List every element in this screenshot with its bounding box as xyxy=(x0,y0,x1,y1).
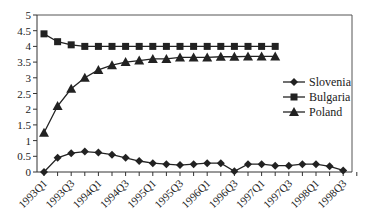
x-tick-label: 1998Q1 xyxy=(288,177,322,211)
x-tick-label: 1993Q1 xyxy=(16,177,50,211)
legend: SloveniaBulgariaPoland xyxy=(283,75,352,119)
diamond-marker xyxy=(162,160,170,168)
diamond-marker xyxy=(339,166,347,174)
x-tick-label: 1994Q1 xyxy=(70,177,104,211)
x-tick-label: 1998Q3 xyxy=(315,177,349,211)
diamond-marker xyxy=(122,154,130,162)
diamond-marker xyxy=(230,167,238,175)
x-tick-label: 1997Q3 xyxy=(261,177,295,211)
square-marker xyxy=(204,43,211,50)
diamond-marker xyxy=(326,162,334,170)
diamond-marker xyxy=(149,159,157,167)
square-marker xyxy=(81,43,88,50)
square-marker xyxy=(245,43,252,50)
x-tick-label: 1995Q3 xyxy=(152,177,186,211)
y-tick-label: 0.5 xyxy=(17,150,31,162)
diamond-marker xyxy=(190,160,198,168)
square-marker xyxy=(54,38,61,45)
square-marker xyxy=(149,43,156,50)
y-tick-label: 1.5 xyxy=(17,119,31,131)
y-tick-label: 2 xyxy=(26,103,32,115)
diamond-marker xyxy=(94,149,102,157)
x-tick-label: 1997Q1 xyxy=(233,177,267,211)
square-marker xyxy=(109,43,116,50)
square-marker xyxy=(163,43,170,50)
diamond-marker xyxy=(67,149,75,157)
diamond-marker xyxy=(81,148,89,156)
series-group xyxy=(39,30,347,176)
diamond-marker xyxy=(217,159,225,167)
diamond-marker xyxy=(298,160,306,168)
series-bulgaria xyxy=(41,30,279,50)
diamond-marker xyxy=(203,159,211,167)
series-poland xyxy=(39,51,280,136)
legend-item-slovenia: Slovenia xyxy=(283,75,352,89)
y-tick-label: 4.5 xyxy=(17,25,31,37)
x-tick-label: 1993Q3 xyxy=(43,177,77,211)
diamond-marker xyxy=(176,161,184,169)
legend-label: Slovenia xyxy=(309,75,352,89)
x-tick-label: 1995Q1 xyxy=(125,177,159,211)
square-marker xyxy=(258,43,265,50)
diamond-marker xyxy=(244,160,252,168)
y-axis: 00.511.522.533.544.55 xyxy=(17,9,37,178)
square-marker xyxy=(272,43,279,50)
square-marker xyxy=(41,30,48,37)
legend-label: Poland xyxy=(309,105,342,119)
legend-item-bulgaria: Bulgaria xyxy=(283,90,351,104)
y-tick-label: 3 xyxy=(26,72,32,84)
diamond-marker xyxy=(258,160,266,168)
y-tick-label: 3.5 xyxy=(17,56,31,68)
x-tick-label: 1996Q3 xyxy=(206,177,240,211)
square-marker xyxy=(217,43,224,50)
y-tick-label: 4 xyxy=(26,40,32,52)
line-chart: 00.511.522.533.544.55 1993Q11993Q31994Q1… xyxy=(0,0,369,220)
diamond-marker xyxy=(312,160,320,168)
square-marker xyxy=(190,43,197,50)
y-tick-label: 0 xyxy=(26,166,32,178)
x-axis: 1993Q11993Q31994Q11994Q31995Q11995Q31996… xyxy=(16,172,357,210)
y-tick-label: 2.5 xyxy=(17,88,31,100)
x-tick-label: 1994Q3 xyxy=(97,177,131,211)
square-marker xyxy=(122,43,129,50)
x-tick-label: 1996Q1 xyxy=(179,177,213,211)
y-tick-label: 5 xyxy=(26,9,32,21)
square-marker xyxy=(231,43,238,50)
triangle-marker xyxy=(39,128,49,137)
legend-label: Bulgaria xyxy=(309,90,351,104)
triangle-marker xyxy=(80,73,90,82)
square-marker xyxy=(95,43,102,50)
diamond-marker xyxy=(135,157,143,165)
diamond-marker xyxy=(108,151,116,159)
square-marker xyxy=(136,43,143,50)
legend-item-poland: Poland xyxy=(283,105,342,119)
square-marker xyxy=(291,94,298,101)
square-marker xyxy=(68,41,75,48)
diamond-marker xyxy=(285,162,293,170)
square-marker xyxy=(177,43,184,50)
diamond-marker xyxy=(271,162,279,170)
triangle-marker xyxy=(93,65,103,74)
y-tick-label: 1 xyxy=(26,135,32,147)
diamond-marker xyxy=(290,78,298,86)
